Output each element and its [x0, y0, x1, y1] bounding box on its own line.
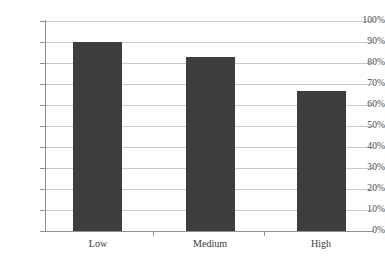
- y-axis-label-10: 10%: [347, 205, 385, 215]
- x-axis-divider-2: [264, 231, 265, 236]
- y-axis-label-100: 100%: [347, 16, 385, 26]
- y-axis-label-70: 70%: [347, 79, 385, 89]
- y-axis-label-20: 20%: [347, 184, 385, 194]
- bar-medium: [186, 57, 235, 231]
- y-axis-label-50: 50%: [347, 121, 385, 131]
- x-axis-end-cap: [373, 227, 374, 232]
- y-axis-label-60: 60%: [347, 100, 385, 110]
- bar-high: [297, 91, 346, 231]
- y-axis-line: [45, 20, 46, 232]
- bar-chart: 100% 90% 80% 70% 60% 50% 40% 30% 20% 10%…: [0, 0, 385, 266]
- gridline-100: [46, 21, 374, 22]
- x-axis-divider-1: [153, 231, 154, 236]
- x-axis-label-medium: Medium: [193, 238, 227, 249]
- bar-low: [73, 42, 122, 231]
- x-axis-line: [45, 231, 374, 232]
- x-axis-label-low: Low: [89, 238, 107, 249]
- y-axis-label-30: 30%: [347, 163, 385, 173]
- x-axis-label-high: High: [311, 238, 331, 249]
- y-axis-label-90: 90%: [347, 37, 385, 47]
- y-axis-label-80: 80%: [347, 58, 385, 68]
- y-axis-label-40: 40%: [347, 142, 385, 152]
